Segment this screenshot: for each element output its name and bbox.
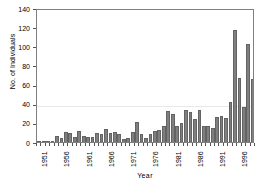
bar bbox=[153, 131, 157, 142]
bar bbox=[251, 79, 254, 142]
x-axis-tick-label: 1966 bbox=[108, 151, 115, 167]
bar bbox=[117, 134, 121, 142]
bar bbox=[37, 141, 41, 142]
x-axis-tick-mark bbox=[205, 143, 206, 146]
x-axis-tick-mark bbox=[94, 143, 95, 146]
bar bbox=[246, 44, 250, 142]
x-axis-tick-labels: 1951195619611966197119761981198619911996 bbox=[36, 147, 254, 173]
bar bbox=[91, 137, 95, 142]
bar bbox=[220, 116, 224, 142]
x-axis-tick-mark bbox=[85, 143, 86, 146]
bar bbox=[86, 137, 90, 142]
bar bbox=[95, 133, 99, 142]
bar bbox=[135, 122, 139, 142]
x-axis-tick-mark bbox=[187, 143, 188, 146]
x-axis-tick-label: 1951 bbox=[41, 151, 48, 167]
x-axis-tick-mark bbox=[49, 143, 50, 146]
bar bbox=[215, 117, 219, 142]
x-axis-tick-mark bbox=[183, 143, 184, 146]
bar bbox=[42, 141, 46, 142]
x-axis-tick-mark bbox=[54, 143, 55, 146]
bar bbox=[166, 111, 170, 142]
bar bbox=[229, 102, 233, 142]
x-axis-tick-mark bbox=[112, 143, 113, 146]
bar bbox=[224, 118, 228, 142]
x-axis-tick-mark bbox=[40, 143, 41, 146]
x-axis-tick-mark bbox=[143, 143, 144, 146]
bar bbox=[198, 110, 202, 142]
x-axis-tick-mark bbox=[201, 143, 202, 146]
bar bbox=[233, 30, 237, 142]
x-axis-tick-mark bbox=[165, 143, 166, 146]
y-axis-tick-label: 100 bbox=[8, 44, 30, 51]
x-axis-tick-mark bbox=[129, 143, 130, 146]
bar bbox=[113, 132, 117, 142]
x-axis-tick-mark bbox=[45, 143, 46, 146]
bar bbox=[242, 107, 246, 142]
x-axis-tick-mark bbox=[245, 143, 246, 146]
x-axis-tick-label: 1981 bbox=[175, 151, 182, 167]
y-axis-tick-label: 120 bbox=[8, 25, 30, 32]
bar bbox=[126, 138, 130, 142]
bar-series bbox=[37, 10, 253, 142]
bar bbox=[51, 141, 55, 142]
x-axis-tick-mark bbox=[232, 143, 233, 146]
x-axis-tick-mark bbox=[116, 143, 117, 146]
bar bbox=[206, 126, 210, 142]
x-axis-tick-mark bbox=[196, 143, 197, 146]
x-axis-tick-mark bbox=[223, 143, 224, 146]
x-axis-tick-mark bbox=[125, 143, 126, 146]
x-axis-tick-mark bbox=[218, 143, 219, 146]
bar bbox=[193, 119, 197, 142]
x-axis-tick-mark bbox=[236, 143, 237, 146]
y-axis-tick-label: 60 bbox=[8, 82, 30, 89]
bar bbox=[189, 112, 193, 142]
x-axis-tick-mark bbox=[134, 143, 135, 146]
bar bbox=[238, 78, 242, 142]
y-axis-tick-label: 80 bbox=[8, 63, 30, 70]
bar bbox=[64, 132, 68, 142]
x-axis-tick-mark bbox=[178, 143, 179, 146]
bar bbox=[184, 110, 188, 142]
x-axis-tick-mark bbox=[169, 143, 170, 146]
x-axis-tick-label: 1991 bbox=[219, 151, 226, 167]
bar bbox=[211, 128, 215, 142]
x-axis-tick-mark bbox=[121, 143, 122, 146]
x-axis-tick-mark bbox=[138, 143, 139, 146]
bar bbox=[109, 133, 113, 142]
y-axis-tick-labels: 020406080100120140 bbox=[8, 0, 30, 183]
x-axis-tick-mark bbox=[250, 143, 251, 146]
x-axis-tick-mark bbox=[63, 143, 64, 146]
bar bbox=[68, 133, 72, 142]
x-axis-tick-mark bbox=[36, 143, 37, 146]
x-axis-tick-label: 1956 bbox=[63, 151, 70, 167]
bar bbox=[162, 126, 166, 142]
x-axis-tick-mark bbox=[58, 143, 59, 146]
x-axis-tick-mark bbox=[152, 143, 153, 146]
y-axis-tick-label: 20 bbox=[8, 120, 30, 127]
bar bbox=[73, 137, 77, 142]
x-axis-tick-mark bbox=[147, 143, 148, 146]
x-axis-tick-mark bbox=[254, 143, 255, 146]
bar bbox=[46, 141, 50, 142]
x-axis-title: Year bbox=[36, 172, 254, 179]
y-axis-tick-label: 40 bbox=[8, 101, 30, 108]
bar bbox=[60, 138, 64, 142]
bar bbox=[144, 138, 148, 142]
x-axis-tick-mark bbox=[89, 143, 90, 146]
y-axis-tick-label: 140 bbox=[8, 6, 30, 13]
bar bbox=[149, 134, 153, 142]
x-axis-tick-mark bbox=[98, 143, 99, 146]
x-axis-tick-label: 1961 bbox=[86, 151, 93, 167]
bar-chart: No. of Individuals 020406080100120140 19… bbox=[0, 0, 260, 183]
bar bbox=[131, 132, 135, 142]
x-axis-tick-mark bbox=[103, 143, 104, 146]
bar bbox=[122, 139, 126, 142]
x-axis-tick-label: 1971 bbox=[130, 151, 137, 167]
x-axis-tick-mark bbox=[210, 143, 211, 146]
bar bbox=[100, 134, 104, 142]
bar bbox=[104, 129, 108, 142]
x-axis-tick-mark bbox=[227, 143, 228, 146]
bar bbox=[77, 131, 81, 142]
plot-area bbox=[36, 9, 254, 143]
